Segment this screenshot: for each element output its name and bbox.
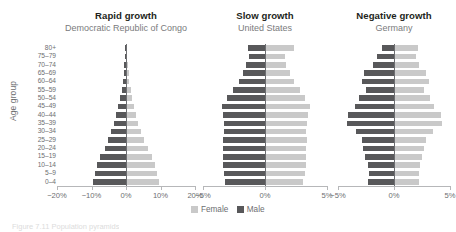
bar-male bbox=[223, 162, 265, 168]
age-group-tick: 45–49 bbox=[18, 103, 56, 110]
age-group-tick: 10–14 bbox=[18, 162, 56, 169]
x-axis-tick-label: 0% bbox=[389, 191, 400, 200]
bar-female bbox=[265, 154, 306, 160]
x-axis-tick-mark bbox=[92, 186, 93, 190]
bar-female bbox=[126, 121, 138, 127]
bar-male bbox=[368, 162, 394, 168]
x-axis-tick-mark bbox=[57, 186, 58, 190]
bar-female bbox=[126, 104, 134, 110]
age-group-tick: 75–79 bbox=[18, 53, 56, 60]
x-axis-tick-mark bbox=[394, 186, 395, 190]
bar-male bbox=[362, 137, 394, 143]
panel-title: Slow growth bbox=[203, 10, 327, 21]
x-axis-tick-label: −5% bbox=[330, 191, 345, 200]
bar-female bbox=[126, 112, 136, 118]
plot-area bbox=[57, 44, 195, 186]
bar-male bbox=[249, 54, 265, 60]
bar-female bbox=[265, 146, 306, 152]
bar-female bbox=[126, 162, 155, 168]
bar-male bbox=[377, 54, 394, 60]
bar-female bbox=[265, 62, 286, 68]
bar-male bbox=[373, 62, 394, 68]
male-swatch-icon bbox=[237, 206, 244, 213]
bar-male bbox=[224, 171, 265, 177]
bar-female bbox=[265, 104, 310, 110]
bar-female bbox=[126, 154, 152, 160]
bar-female bbox=[394, 87, 424, 93]
x-axis-tick-mark bbox=[161, 186, 162, 190]
x-axis-tick-mark bbox=[338, 186, 339, 190]
age-group-tick: 55–59 bbox=[18, 87, 56, 94]
bar-male bbox=[359, 95, 394, 101]
bar-female bbox=[126, 171, 157, 177]
bar-male bbox=[248, 45, 265, 51]
bar-male bbox=[356, 129, 394, 135]
bar-male bbox=[114, 121, 126, 127]
bar-male bbox=[355, 104, 394, 110]
bar-female bbox=[265, 112, 308, 118]
bar-male bbox=[95, 171, 126, 177]
bar-male bbox=[227, 95, 265, 101]
bar-female bbox=[394, 45, 418, 51]
x-axis-tick-label: 0% bbox=[121, 191, 132, 200]
age-group-tick: 80+ bbox=[18, 45, 56, 52]
panel-subtitle: United States bbox=[203, 23, 327, 33]
bar-female bbox=[126, 129, 141, 135]
bar-male bbox=[362, 79, 394, 85]
age-group-tick: 60–64 bbox=[18, 78, 56, 85]
bar-male bbox=[93, 179, 126, 185]
panel-title: Negative growth bbox=[338, 10, 450, 21]
x-axis-tick-label: −5% bbox=[195, 191, 210, 200]
plot-area bbox=[338, 44, 450, 186]
bar-male bbox=[223, 137, 265, 143]
x-axis-tick-mark bbox=[126, 186, 127, 190]
legend-label-male: Male bbox=[247, 205, 265, 214]
panel-title: Rapid growth bbox=[57, 10, 195, 21]
bar-female bbox=[265, 179, 303, 185]
age-group-tick: 5–9 bbox=[18, 170, 56, 177]
bar-female bbox=[394, 179, 419, 185]
population-pyramid-figure: Age group 80+75–7970–7465–6960–6455–5950… bbox=[0, 0, 456, 232]
bar-female bbox=[394, 154, 422, 160]
x-axis-tick-mark bbox=[265, 186, 266, 190]
zero-center-line bbox=[126, 44, 127, 186]
bar-male bbox=[223, 146, 265, 152]
bar-male bbox=[222, 104, 265, 110]
age-group-tick-column: 80+75–7970–7465–6960–6455–5950–5445–4940… bbox=[18, 44, 56, 186]
figure-caption: Figure 7.11 Population pyramids bbox=[12, 222, 119, 232]
x-axis-tick-mark bbox=[450, 186, 451, 190]
bar-female bbox=[265, 121, 307, 127]
x-axis-tick-mark bbox=[195, 186, 196, 190]
age-group-tick: 40–44 bbox=[18, 112, 56, 119]
bar-female bbox=[394, 70, 426, 76]
panel-subtitle: Germany bbox=[338, 23, 450, 33]
bar-male bbox=[246, 62, 265, 68]
x-axis-tick-mark bbox=[327, 186, 328, 190]
panel-subtitle: Democratic Republic of Congo bbox=[57, 23, 195, 33]
age-group-tick: 0–4 bbox=[18, 179, 56, 186]
age-group-tick: 15–19 bbox=[18, 153, 56, 160]
bar-male bbox=[100, 154, 126, 160]
bar-female bbox=[265, 79, 294, 85]
bar-female bbox=[394, 162, 420, 168]
bar-male bbox=[116, 112, 126, 118]
bar-female bbox=[265, 70, 290, 76]
bar-male bbox=[347, 121, 394, 127]
age-group-tick: 20–24 bbox=[18, 145, 56, 152]
bar-male bbox=[97, 162, 126, 168]
zero-center-line bbox=[394, 44, 395, 186]
bar-male bbox=[111, 129, 126, 135]
bar-female bbox=[394, 104, 434, 110]
bar-female bbox=[265, 54, 285, 60]
bar-female bbox=[394, 62, 419, 68]
bar-female bbox=[394, 112, 441, 118]
bar-male bbox=[118, 104, 126, 110]
bar-male bbox=[348, 112, 394, 118]
x-axis-tick-label: 5% bbox=[445, 191, 456, 200]
bar-male bbox=[364, 70, 394, 76]
x-axis-tick-label: 0% bbox=[260, 191, 271, 200]
bar-female bbox=[394, 95, 430, 101]
bar-female bbox=[265, 95, 305, 101]
bar-male bbox=[105, 146, 126, 152]
bar-female bbox=[265, 45, 294, 51]
